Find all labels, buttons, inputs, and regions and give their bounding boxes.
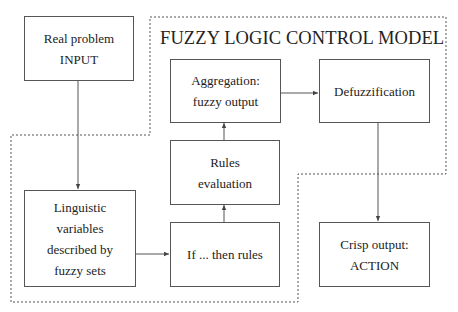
evaluation-line-1: Rules [210, 152, 240, 173]
evaluation-line-2: evaluation [198, 173, 252, 194]
if-then-rules-node: If ... then rules [170, 222, 280, 287]
rules-line-1: If ... then rules [187, 244, 263, 265]
crisp-output-node: Crisp output: ACTION [319, 222, 430, 287]
linguistic-line-4: fuzzy sets [54, 260, 106, 281]
linguistic-line-2: variables [57, 218, 104, 239]
input-node: Real problem INPUT [24, 16, 134, 81]
rules-evaluation-node: Rules evaluation [170, 140, 280, 205]
crisp-line-1: Crisp output: [340, 234, 408, 255]
defuzzification-node: Defuzzification [319, 59, 430, 123]
linguistic-line-1: Linguistic [54, 197, 107, 218]
input-node-line-2: INPUT [60, 49, 98, 70]
aggregation-line-1: Aggregation: [191, 70, 260, 91]
diagram-title: FUZZY LOGIC CONTROL MODEL [160, 28, 444, 49]
aggregation-node: Aggregation: fuzzy output [170, 59, 281, 123]
crisp-line-2: ACTION [350, 255, 399, 276]
defuzzification-line-1: Defuzzification [334, 81, 415, 102]
linguistic-variables-node: Linguistic variables described by fuzzy … [24, 190, 136, 287]
linguistic-line-3: described by [47, 239, 113, 260]
aggregation-line-2: fuzzy output [193, 91, 258, 112]
input-node-line-1: Real problem [44, 28, 114, 49]
